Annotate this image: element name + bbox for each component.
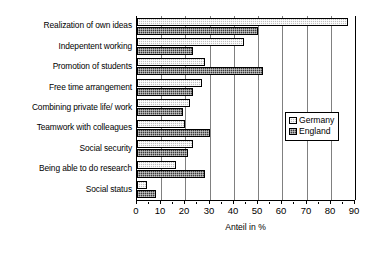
legend-item-germany: Germany: [289, 115, 334, 126]
category-axis: Realization of own ideasIndepentent work…: [0, 16, 134, 200]
bar-group: [137, 58, 355, 78]
x-tick-minor: [293, 202, 294, 204]
x-tick: [330, 200, 331, 204]
bar-germany: [137, 161, 176, 169]
x-tick-label: 40: [221, 205, 245, 216]
x-tick-label: 0: [124, 205, 148, 216]
plot-area: [136, 16, 356, 200]
x-tick: [136, 200, 137, 204]
x-tick-minor: [318, 202, 319, 204]
bar-germany: [137, 79, 202, 87]
bar-germany: [137, 181, 147, 189]
category-label: Promotion of students: [53, 62, 132, 71]
x-tick-label: 10: [148, 205, 172, 216]
x-tick: [209, 200, 210, 204]
x-tick-minor: [148, 202, 149, 204]
x-tick: [306, 200, 307, 204]
bar-group: [137, 140, 355, 160]
legend-label-england: England: [299, 127, 331, 136]
x-axis-line: [136, 200, 355, 201]
x-tick-label: 50: [245, 205, 269, 216]
bar-england: [137, 129, 210, 137]
x-tick-minor: [172, 202, 173, 204]
x-tick-minor: [245, 202, 246, 204]
bar-germany: [137, 120, 185, 128]
legend-label-germany: Germany: [299, 116, 334, 125]
bar-england: [137, 170, 205, 178]
bar-england: [137, 149, 188, 157]
bar-germany: [137, 18, 348, 26]
x-tick-minor: [269, 202, 270, 204]
x-tick: [160, 200, 161, 204]
category-label: Indepentent working: [58, 42, 132, 51]
bar-group: [137, 161, 355, 181]
bar-group: [137, 18, 355, 38]
x-tick: [233, 200, 234, 204]
category-label: Free time arrangement: [49, 83, 132, 92]
bar-germany: [137, 58, 205, 66]
x-tick-label: 60: [269, 205, 293, 216]
category-label: Combining private life/ work: [32, 103, 132, 112]
bar-group: [137, 38, 355, 58]
category-label: Realization of own ideas: [44, 21, 132, 30]
bar-group: [137, 181, 355, 201]
x-tick-label: 90: [342, 205, 366, 216]
x-tick-minor: [221, 202, 222, 204]
x-tick: [184, 200, 185, 204]
germany-swatch-icon: [289, 117, 297, 124]
bar-group: [137, 79, 355, 99]
category-label: Teamwork with colleagues: [37, 123, 132, 132]
bar-england: [137, 108, 183, 116]
legend-item-england: England: [289, 126, 334, 137]
england-swatch-icon: [289, 128, 297, 135]
bar-chart: Realization of own ideasIndepentent work…: [0, 0, 374, 261]
bar-germany: [137, 99, 190, 107]
x-tick-label: 80: [318, 205, 342, 216]
x-tick: [257, 200, 258, 204]
bar-england: [137, 88, 193, 96]
x-tick-label: 30: [197, 205, 221, 216]
bar-england: [137, 67, 263, 75]
bar-england: [137, 190, 156, 198]
x-tick-label: 20: [172, 205, 196, 216]
bar-england: [137, 47, 193, 55]
x-tick-minor: [196, 202, 197, 204]
category-label: Being able to do research: [39, 164, 132, 173]
x-tick-label: 70: [294, 205, 318, 216]
category-label: Social security: [80, 144, 133, 153]
x-tick-minor: [342, 202, 343, 204]
chart-legend: Germany England: [285, 112, 339, 141]
bar-england: [137, 27, 258, 35]
category-label: Social status: [86, 185, 132, 194]
bar-germany: [137, 140, 193, 148]
bar-germany: [137, 38, 244, 46]
x-tick: [354, 200, 355, 204]
x-tick: [281, 200, 282, 204]
x-axis-title: Anteil in %: [136, 222, 355, 232]
